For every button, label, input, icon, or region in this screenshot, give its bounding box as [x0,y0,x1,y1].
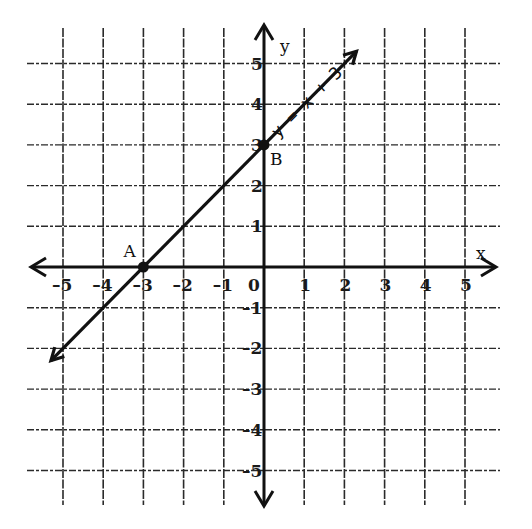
x-tick-label: –3 [132,275,152,295]
x-tick-label: –1 [213,275,233,295]
line-series: y = x + 3 [51,51,357,360]
x-tick-label: –4 [92,275,113,295]
point-a [138,262,149,273]
x-tick-label: 2 [339,275,351,295]
coordinate-plane: –5–4–3–2–101234554321–1–2–3–4–5 y = x + … [0,0,532,529]
y-tick-label: 1 [251,216,263,236]
y-tick-label: –3 [242,379,262,399]
x-tick-label: 0 [248,275,260,295]
y-tick-label: 5 [251,54,263,74]
y-tick-label: 4 [251,94,263,114]
point-b [259,139,270,150]
x-tick-label: 3 [380,275,392,295]
y-tick-label: 2 [251,176,263,196]
equation-label: y = x + 3 [267,62,346,141]
x-tick-label: 4 [420,275,432,295]
x-tick-label: –5 [52,275,72,295]
x-axis-label: x [476,243,486,263]
y-tick-label: –4 [242,420,263,440]
x-tick-label: –2 [173,275,193,295]
y-tick-label: –1 [242,298,262,318]
axes [31,25,496,506]
y-tick-label: –2 [242,338,262,358]
point-label-a: A [122,241,136,261]
y-tick-label: –5 [242,461,262,481]
point-label-b: B [270,149,283,169]
x-tick-label: 1 [299,275,311,295]
y-axis-label: y [279,36,290,56]
x-tick-label: 5 [460,275,472,295]
